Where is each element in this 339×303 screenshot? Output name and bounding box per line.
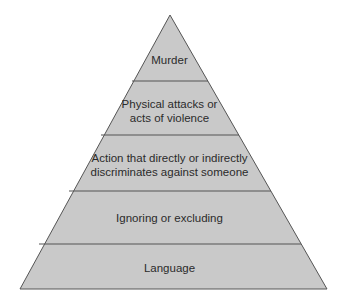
tier-label-physical-attacks: Physical attacks or acts of violence [0, 97, 339, 125]
tier-label-murder: Murder [0, 53, 339, 67]
tier-label-ignoring-excluding: Ignoring or excluding [0, 211, 339, 225]
tier-label-discriminatory-action: Action that directly or indirectly discr… [0, 151, 339, 179]
tier-label-language: Language [0, 261, 339, 275]
